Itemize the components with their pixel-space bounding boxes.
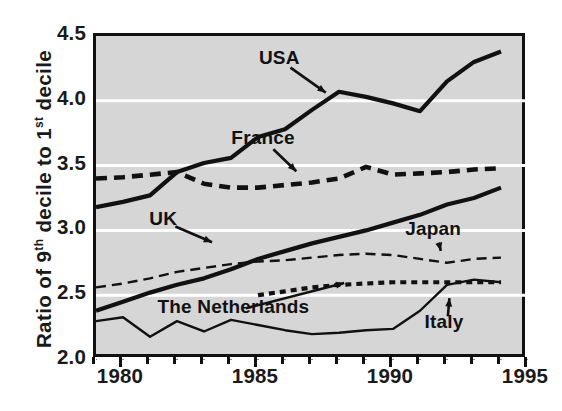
y-tick-3.5: 3.5 xyxy=(32,151,86,175)
x-tick-mark-1986 xyxy=(281,357,284,364)
chart-figure: Ratio of 9th decile to 1st decile 2.02.5… xyxy=(0,0,562,411)
series-label-france: France xyxy=(231,128,295,147)
x-tick-1990: 1990 xyxy=(367,364,413,388)
annotation-arrow-usa xyxy=(290,68,325,93)
x-tick-mark-1987 xyxy=(308,357,311,364)
series-label-uk: UK xyxy=(149,208,177,227)
x-tick-mark-1983 xyxy=(200,357,203,364)
x-axis-tick-marks xyxy=(93,357,525,367)
x-tick-mark-1980 xyxy=(119,357,122,367)
x-tick-mark-1991 xyxy=(416,357,419,364)
y-tick-4.5: 4.5 xyxy=(32,21,86,45)
x-tick-mark-1990 xyxy=(389,357,392,367)
x-tick-mark-1992 xyxy=(443,357,446,364)
y-tick-3.0: 3.0 xyxy=(32,215,86,239)
series-line-france xyxy=(96,167,501,188)
series-line-japan xyxy=(96,254,501,288)
series-label-italy: Italy xyxy=(424,312,463,331)
x-tick-mark-1985 xyxy=(254,357,257,367)
series-label-usa: USA xyxy=(259,48,300,67)
series-label-the-netherlands: The Netherlands xyxy=(157,296,309,315)
x-tick-mark-1989 xyxy=(362,357,365,364)
x-tick-mark-1995 xyxy=(524,357,527,367)
x-tick-mark-1994 xyxy=(497,357,500,364)
x-tick-mark-1982 xyxy=(173,357,176,364)
y-tick-2.5: 2.5 xyxy=(32,280,86,304)
x-tick-1995: 1995 xyxy=(502,364,548,388)
series-line-the-netherlands xyxy=(258,282,501,295)
x-tick-mark-1993 xyxy=(470,357,473,364)
annotation-arrow-uk xyxy=(175,227,212,243)
series-label-japan: Japan xyxy=(405,219,461,238)
annotation-arrow-france xyxy=(273,149,296,171)
annotation-arrow-japan xyxy=(435,242,442,251)
x-tick-mark-1988 xyxy=(335,357,338,364)
x-tick-1985: 1985 xyxy=(232,364,278,388)
x-tick-mark-1981 xyxy=(146,357,149,364)
y-tick-2.0: 2.0 xyxy=(32,345,86,369)
y-tick-4.0: 4.0 xyxy=(32,86,86,110)
y-axis-tick-labels: 2.02.53.03.54.04.5 xyxy=(28,0,86,411)
x-tick-1980: 1980 xyxy=(97,364,143,388)
x-tick-mark-1979 xyxy=(92,357,95,364)
x-tick-mark-1984 xyxy=(227,357,230,364)
